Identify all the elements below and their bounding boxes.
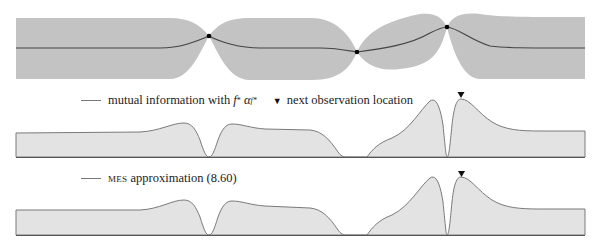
legend-series-label: approximation (8.60) (127, 171, 236, 186)
figure-canvas (0, 0, 597, 246)
observation-point (355, 50, 360, 55)
observation-point (445, 25, 450, 30)
legend-mes-approximation: mes approximation (8.60) (81, 171, 237, 186)
legend-mutual-information: mutual information with f* αf* ▼ next ob… (81, 93, 413, 108)
gp-posterior-panel (16, 14, 585, 80)
legend-line-swatch (81, 100, 101, 101)
legend-line-swatch (81, 178, 101, 179)
triangle-down-icon: ▼ (273, 96, 282, 106)
legend-mes-abbrev: mes (108, 171, 127, 186)
legend-math-sub: f* (251, 96, 257, 105)
next-observation-marker (458, 171, 465, 177)
legend-series-label: mutual information with (108, 93, 230, 108)
observation-point (207, 34, 212, 39)
legend-marker-label: next observation location (287, 93, 413, 108)
next-observation-marker (458, 92, 465, 98)
